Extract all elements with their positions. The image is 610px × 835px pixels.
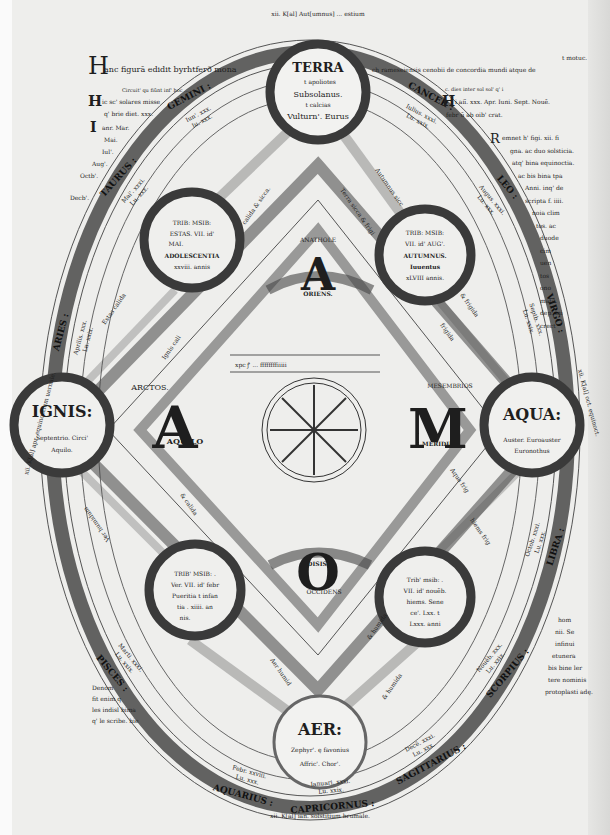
note-line: ono (540, 284, 551, 291)
autumn-line-4: Iuuentus (410, 263, 441, 270)
right-note-small: c. dies inter sol sol' q' i (445, 86, 504, 93)
letter-a-left: A (151, 394, 198, 462)
note-line: ac bis bina tpa (518, 172, 563, 180)
note-line: etunera (552, 652, 576, 659)
winter-line-3: hiems. Sene (407, 598, 444, 605)
ignis-line-2: Aquilo. (50, 446, 72, 454)
aer-label: AER: (297, 720, 342, 739)
note-line: bis bine ler (548, 664, 582, 671)
quality-ignis-cali: Ignis cali (160, 334, 183, 361)
autumn-line-2: VII. id' AUG'. (404, 240, 445, 247)
summer-circle (144, 192, 240, 288)
spring-line-5: nis. (180, 614, 191, 621)
left-month-3: Iul'. (102, 148, 114, 155)
terra-line-2: Subsolanus. (294, 90, 343, 99)
left-note-line-1: ic sc' solares misse (102, 98, 161, 105)
aqua-line-1: Auster. Euroauster (502, 436, 560, 443)
quality-terra-sicca: Terra sicca & frigi (338, 187, 376, 237)
winter-line-4: ce'. Lxx. t (410, 609, 440, 616)
central-rhombus (60, 165, 548, 690)
note-line: Denom (92, 684, 114, 691)
left-month-2: Mai. (104, 136, 118, 143)
left-note2-initial: I (90, 119, 97, 135)
note-line: Anni. inq' de (524, 184, 564, 192)
note-line: crect (540, 322, 556, 329)
aer-circle (274, 696, 366, 788)
note-line: gna. ac duo solsticia. (510, 147, 574, 155)
note-line: nii. Se (555, 628, 575, 635)
note-line: infinui (555, 640, 575, 647)
summer-line-3: MAI. (169, 240, 184, 247)
corner-note: t motuc. (562, 54, 587, 61)
right-note2-lines: emnet h' figi. xii. figna. ac duo solsti… (502, 134, 574, 329)
right-note2-initial: R (490, 131, 501, 146)
letter-m: M (408, 397, 468, 461)
right-note-line-2: febr ū ab oib' crat. (446, 111, 503, 118)
note-line: les indisl bima (92, 706, 136, 713)
left-month-4: Aug'. (91, 160, 108, 168)
spring-line-3: Pueritia t infan (172, 592, 218, 599)
note-line: hom (558, 616, 571, 623)
note-line: protoplasti adę. (545, 688, 593, 696)
zodiac-sign-aquarius: AQUARIUS : (211, 782, 274, 808)
lunar-row-text: xpc ꝭ ... ffffffffiiiii (235, 361, 287, 369)
note-line: atq' bina equinoctia. (512, 159, 574, 167)
left-note-initial: H (88, 92, 102, 110)
disis-label: DISIS. (307, 560, 328, 567)
header-title-right: ch rameseiensis cenobii de concordia mun… (372, 66, 536, 74)
left-note-line-2: q' brie diet. xxx. (104, 110, 153, 118)
quality-aestas-calida: Estas calida (100, 291, 127, 325)
note-line: tere nominis (548, 676, 586, 683)
terra-line-1: t apoliotes (304, 78, 336, 86)
solstice-winter: xii. K[al] ian. solstitium brumale. (270, 812, 370, 819)
note-line: duode (540, 234, 559, 241)
right-note3-lines: homnii. Seinfinuietunerabis bine lertere… (545, 616, 593, 696)
aqua-label: AQUA: (502, 405, 561, 424)
terra-line-3: t calcias (305, 101, 330, 108)
note-line: tos. ac (536, 222, 556, 229)
note-line: mata. (540, 297, 557, 304)
summer-line-1: TRIB: MSIB: (173, 219, 211, 226)
byrhtferth-diagram: xpc ꝭ ... ffffffffiiiii TERRA t apoliote… (0, 0, 610, 835)
oriens-label: ORIENS. (303, 290, 332, 297)
spring-circle (149, 544, 241, 636)
autumn-line-3: AUTUMNUS. (402, 252, 446, 259)
autumn-line-5: xLVIII annis. (406, 274, 444, 281)
aqua-line-2: Euronothus (514, 447, 549, 454)
summer-line-4: ADOLESCENTIA (164, 252, 220, 259)
arctos-label: ARCTOS. (130, 383, 169, 392)
right-note-initial: H (442, 93, 455, 109)
aer-line-1: Zephyr'. ę favonius (291, 746, 349, 754)
meridies-label: MERIDIES (422, 440, 458, 447)
summer-line-2: ESTAS. VII. id' (170, 230, 215, 237)
right-note-line-1: i aiī. xxx. Apr. Iuni. Sept. Nouē. (455, 98, 550, 106)
note-line: dep. ini (540, 309, 563, 317)
terra-label: TERRA (292, 60, 344, 75)
zodiac-sign-libra: LIBRA : (545, 527, 567, 567)
winter-line-5: Lxxx. anni (409, 620, 440, 627)
note-line: noia clim (532, 209, 560, 216)
note-line: scripta f. iiii. (525, 197, 563, 205)
spring-line-4: tia . xiiii. an (177, 603, 213, 610)
spring-line-2: Ver. VII. id' febr (170, 581, 219, 588)
ignis-line-1: Septentrio. Circi' (36, 434, 89, 442)
note-line: cim (540, 247, 551, 254)
autumn-line-1: TRIB: MSIB: (406, 229, 444, 236)
top-arc-label: xii. K[al] Aut[umnus] ... estium (271, 10, 365, 17)
aer-line-2: Affric'. Chor'. (299, 760, 341, 767)
center-wheel (262, 378, 366, 482)
note-line: q' le scribe. hie (92, 717, 139, 725)
quality-frigida-2: & frigida (458, 292, 481, 319)
winter-line-2: VII. id' nouēb. (403, 587, 447, 594)
left-month-5: Octb'. (80, 172, 98, 179)
note-line: uen (540, 259, 551, 266)
quality-hiems-frig: hiems frig (468, 517, 492, 547)
winter-circle (379, 551, 471, 643)
note-line: emnet h' figi. xii. fi (502, 134, 559, 142)
left-month-1: anr. Mar. (102, 124, 129, 131)
aquilo-label: AQUILO (166, 436, 204, 446)
mesembrios-label: MESEMBRIOS (427, 382, 472, 389)
left-note-small: Circuit' qu fiūnt inf' hoc ... (122, 87, 189, 94)
occidens-label: OCCIDENS (306, 588, 341, 595)
header-title: anc figurā edidit byrhtferð mona (104, 65, 237, 74)
